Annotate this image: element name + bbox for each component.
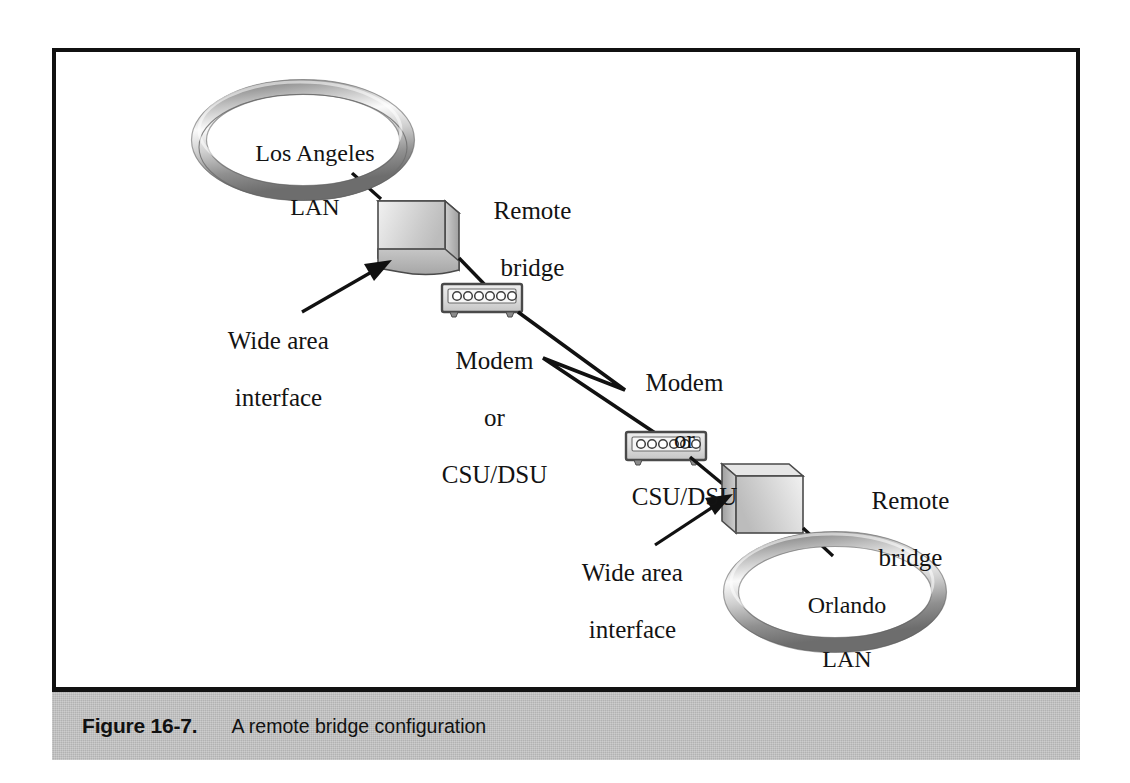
- wan-interface-label-la: Wide area interface: [176, 298, 356, 441]
- figure-caption-bar: Figure 16-7. A remote bridge configurati…: [52, 687, 1080, 760]
- bridge-orl-line1: Remote: [872, 487, 950, 514]
- modem-la-line1: Modem: [456, 347, 534, 374]
- modem-la-line3: CSU/DSU: [442, 461, 548, 488]
- modem-orl-line1: Modem: [646, 369, 724, 396]
- figure-container: Los Angeles LAN Remote bridge Wide area …: [0, 0, 1130, 783]
- wan-if-orl-line1: Wide area: [582, 559, 683, 586]
- modem-orl-line2: or: [674, 426, 695, 453]
- lan-orl-line2: LAN: [822, 646, 871, 672]
- bridge-label-los-angeles: Remote bridge: [440, 168, 600, 311]
- lan-orl-line1: Orlando: [808, 592, 887, 618]
- lan-label-los-angeles: Los Angeles LAN: [213, 113, 393, 247]
- modem-la-line2: or: [484, 404, 505, 431]
- bridge-la-line1: Remote: [494, 197, 572, 224]
- wan-if-la-line1: Wide area: [228, 327, 329, 354]
- wan-interface-label-orlando: Wide area interface: [530, 530, 710, 673]
- figure-caption-text: A remote bridge configuration: [231, 715, 486, 738]
- wan-if-orl-line2: interface: [589, 616, 676, 643]
- lan-la-line2: LAN: [290, 194, 339, 220]
- wan-if-la-line2: interface: [235, 384, 322, 411]
- bridge-la-line2: bridge: [501, 254, 565, 281]
- modem-label-los-angeles: Modem or CSU/DSU: [404, 318, 560, 518]
- lan-label-orlando: Orlando LAN: [745, 565, 925, 699]
- modem-label-orlando: Modem or CSU/DSU: [594, 340, 750, 540]
- modem-orl-line3: CSU/DSU: [632, 483, 738, 510]
- lan-la-line1: Los Angeles: [255, 140, 374, 166]
- figure-number: Figure 16-7.: [82, 714, 197, 738]
